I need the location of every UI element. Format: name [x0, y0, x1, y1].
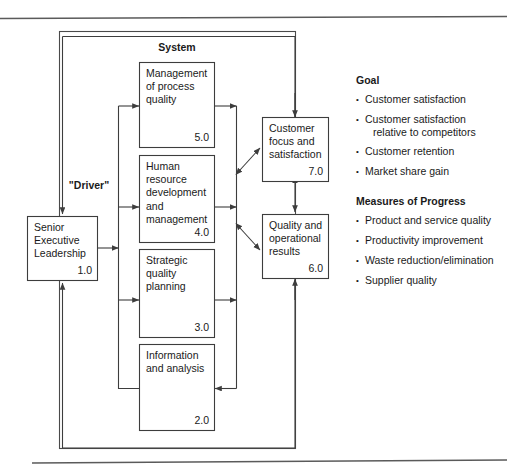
box-1-line: Executive — [34, 234, 80, 246]
box-4-line: development — [146, 186, 206, 198]
box-2-number: 2.0 — [194, 414, 209, 426]
box-1-line: Leadership — [34, 247, 86, 259]
driver-label: "Driver" — [69, 179, 109, 191]
box-6-line: operational — [269, 232, 321, 244]
box-4-line: and — [146, 200, 164, 212]
box-4-line: resource — [146, 173, 187, 185]
top-rule — [0, 17, 507, 19]
box-7-number: 7.0 — [308, 165, 323, 177]
box-6-line: Quality and — [269, 219, 322, 231]
baldrige-framework-diagram: System "Driver" Managementof processqual… — [0, 0, 507, 474]
system-label: System — [158, 41, 195, 53]
bottom-rule — [32, 460, 507, 463]
box-7-line: Customer — [269, 122, 315, 134]
box-2-line: and analysis — [146, 362, 204, 374]
box-5-number: 5.0 — [194, 131, 209, 143]
box-4-line: management — [146, 213, 207, 225]
box-7-line: focus and — [269, 135, 315, 147]
box-4-line: Human — [146, 160, 180, 172]
box-7-line: satisfaction — [269, 148, 322, 160]
box-1-line: Senior — [34, 221, 65, 233]
box-5-line: Management — [146, 67, 207, 79]
box-3-line: planning — [146, 280, 186, 292]
box-6-number: 6.0 — [308, 262, 323, 274]
box-4-number: 4.0 — [194, 226, 209, 238]
box-5-line: quality — [146, 93, 177, 105]
box-5-line: of process — [146, 80, 194, 92]
box-1-number: 1.0 — [77, 264, 92, 276]
box-3-line: quality — [146, 267, 177, 279]
box-3-number: 3.0 — [194, 321, 209, 333]
connector-system-to-customer — [240, 148, 260, 170]
connector-system-to-quality — [240, 228, 260, 250]
box-3-line: Strategic — [146, 254, 187, 266]
box-2-line: Information — [146, 349, 199, 361]
box-6-line: results — [269, 245, 300, 257]
diagram-root: System "Driver" Managementof processqual… — [0, 0, 507, 474]
connector-left-bus — [119, 106, 140, 389]
